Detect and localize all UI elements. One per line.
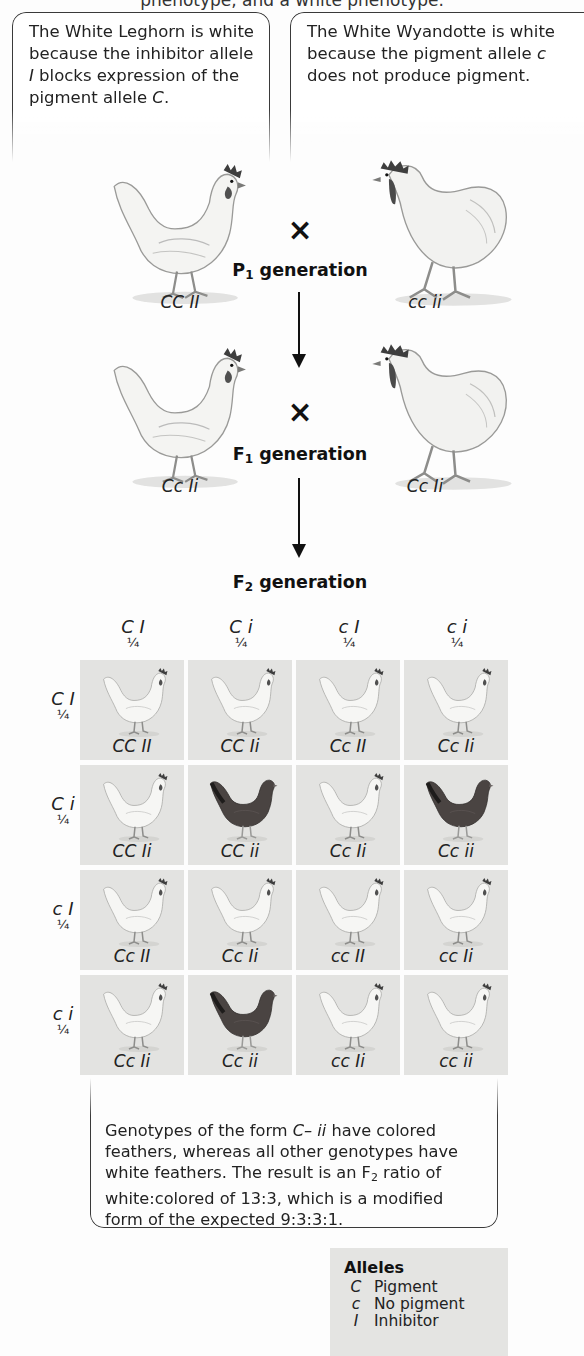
white-chicken-icon — [314, 664, 386, 740]
subscript: 2 — [371, 1171, 378, 1184]
cross-symbol: × — [280, 394, 320, 429]
allele-meaning: Inhibitor — [374, 1313, 439, 1330]
label-subscript: 2 — [245, 580, 253, 594]
white-chicken-icon — [422, 874, 494, 950]
cell-genotype: Cc II — [296, 736, 400, 756]
legend-item: cNo pigment — [344, 1296, 508, 1313]
cell-genotype: Cc ii — [188, 1051, 292, 1071]
gamete-label: C I — [121, 616, 145, 637]
p1-generation-label: P1 generation — [200, 260, 400, 282]
gamete-frequency: ¼ — [404, 636, 510, 650]
p1-right-genotype: cc ii — [385, 292, 465, 312]
punnett-cell: Cc II — [296, 660, 400, 760]
gamete-frequency: ¼ — [188, 636, 294, 650]
gamete-label: C I — [51, 688, 75, 709]
white-chicken-icon — [98, 769, 170, 845]
callout-text: . — [164, 88, 169, 107]
column-header-CI: C I¼ — [80, 618, 186, 650]
callout-text: blocks expression of the pigment allele — [29, 66, 239, 107]
label-subscript: 1 — [245, 452, 253, 466]
punnett-cell: Cc Ii — [188, 870, 292, 970]
punnett-cell: Cc Ii — [80, 975, 184, 1075]
f1-hen-icon — [100, 340, 250, 492]
punnett-cell: CC Ii — [188, 660, 292, 760]
cut-off-heading: phenotype, and a white phenotype. — [0, 0, 584, 10]
gamete-label: c i — [53, 1003, 74, 1024]
row-header-cI: c I¼ — [48, 900, 78, 932]
cell-genotype: cc ii — [404, 1051, 508, 1071]
cell-genotype: Cc ii — [404, 841, 508, 861]
white-chicken-icon — [98, 664, 170, 740]
arrow-down-icon — [292, 478, 306, 558]
punnett-cell: Cc Ii — [296, 765, 400, 865]
legend-item: CPigment — [344, 1279, 508, 1296]
white-leghorn-hen-icon — [100, 156, 250, 308]
legend-item: IInhibitor — [344, 1313, 508, 1330]
f2-generation-label: F2 generation — [200, 572, 400, 594]
p1-left-genotype: CC II — [140, 292, 220, 312]
cell-genotype: cc Ii — [404, 946, 508, 966]
punnett-cell: Cc II — [80, 870, 184, 970]
label-text: generation — [253, 444, 367, 464]
punnett-cell: cc II — [296, 870, 400, 970]
white-chicken-icon — [314, 874, 386, 950]
label-text: F — [233, 444, 245, 464]
label-text: generation — [254, 260, 368, 280]
callout-text: The White Leghorn is white because the i… — [29, 22, 254, 63]
punnett-cell: Cc Ii — [404, 660, 508, 760]
punnett-cell: cc ii — [404, 975, 508, 1075]
row-header-CI: C I¼ — [48, 690, 78, 722]
cell-genotype: Cc II — [80, 946, 184, 966]
gamete-label: c I — [339, 616, 360, 637]
callout-text: Genotypes of the form — [105, 1121, 293, 1140]
row-header-Ci: C i¼ — [48, 795, 78, 827]
punnett-square: CC II CC Ii Cc II Cc Ii CC Ii CC ii Cc I… — [80, 660, 510, 1075]
gamete-frequency: ¼ — [48, 918, 78, 932]
cell-genotype: CC Ii — [80, 841, 184, 861]
punnett-cell: cc Ii — [296, 975, 400, 1075]
cell-genotype: Cc Ii — [80, 1051, 184, 1071]
white-chicken-icon — [314, 979, 386, 1055]
column-header-Ci: C i¼ — [188, 618, 294, 650]
punnett-cell: CC Ii — [80, 765, 184, 865]
cell-genotype: cc II — [296, 946, 400, 966]
punnett-cell: CC II — [80, 660, 184, 760]
colored-chicken-icon — [206, 769, 278, 845]
column-header-ci: c i¼ — [404, 618, 510, 650]
cell-genotype: cc Ii — [296, 1051, 400, 1071]
gamete-frequency: ¼ — [48, 813, 78, 827]
callout-f2-ratio-explanation: Genotypes of the form C– ii have colored… — [90, 1078, 498, 1228]
cell-genotype: CC Ii — [188, 736, 292, 756]
gamete-label: C i — [51, 793, 74, 814]
cell-genotype: CC II — [80, 736, 184, 756]
gamete-frequency: ¼ — [48, 1023, 78, 1037]
allele-meaning: Pigment — [374, 1279, 438, 1296]
f1-generation-label: F1 generation — [200, 444, 400, 466]
colored-chicken-icon — [206, 979, 278, 1055]
allele-symbol: c — [344, 1296, 368, 1313]
label-text: generation — [253, 572, 367, 592]
gamete-label: C i — [229, 616, 252, 637]
white-chicken-icon — [98, 874, 170, 950]
column-header-cI: c I¼ — [296, 618, 402, 650]
allele-symbol: C — [344, 1279, 368, 1296]
punnett-cell: Cc ii — [404, 765, 508, 865]
white-chicken-icon — [98, 979, 170, 1055]
f1-rooster-icon — [368, 338, 518, 494]
gamete-frequency: ¼ — [80, 636, 186, 650]
white-chicken-icon — [422, 664, 494, 740]
allele-symbol: C — [152, 88, 164, 107]
row-header-ci: c i¼ — [48, 1005, 78, 1037]
callout-text: The White Wyandotte is white because the… — [307, 22, 555, 63]
white-wyandotte-rooster-icon — [368, 154, 518, 310]
gamete-label: c I — [53, 898, 74, 919]
label-text: F — [233, 572, 245, 592]
gamete-frequency: ¼ — [48, 708, 78, 722]
white-chicken-icon — [422, 979, 494, 1055]
cell-genotype: Cc Ii — [188, 946, 292, 966]
callout-white-wyandotte: The White Wyandotte is white because the… — [290, 12, 584, 162]
arrow-down-icon — [292, 292, 306, 368]
white-chicken-icon — [206, 664, 278, 740]
label-text: P — [232, 260, 245, 280]
punnett-cell: CC ii — [188, 765, 292, 865]
